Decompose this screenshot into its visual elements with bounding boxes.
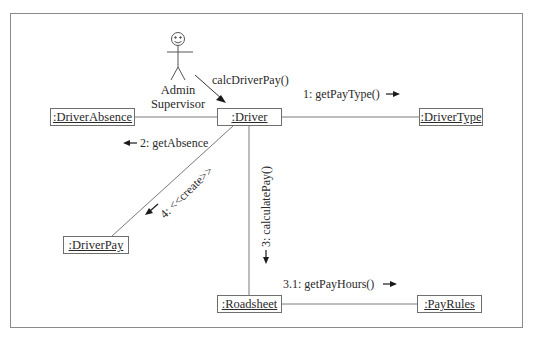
message-calc-driver-pay: calcDriverPay() — [212, 73, 289, 87]
get-absence-arrow-icon — [123, 140, 137, 146]
create-arrow-icon — [145, 204, 158, 215]
object-pay-rules[interactable]: :PayRules — [417, 295, 482, 313]
object-driver-type[interactable]: :DriverType — [419, 108, 483, 126]
object-driver[interactable]: :Driver — [217, 108, 282, 126]
get-pay-hours-arrow-icon — [383, 281, 397, 287]
message-get-pay-type: 1: getPayType() — [303, 87, 380, 101]
object-driver-absence[interactable]: :DriverAbsence — [50, 108, 135, 126]
actor-label: Admin Supervisor — [143, 83, 213, 111]
object-driver-pay[interactable]: :DriverPay — [63, 236, 129, 254]
actor-name-line1: Admin — [143, 83, 213, 97]
message-get-pay-hours: 3.1: getPayHours() — [283, 277, 374, 291]
actor-stick-figure-icon — [167, 33, 193, 81]
get-pay-type-arrow-icon — [386, 91, 400, 97]
calculate-pay-arrow-icon — [263, 250, 269, 264]
object-roadsheet[interactable]: :Roadsheet — [217, 295, 282, 313]
message-get-absence: 2: getAbsence — [140, 136, 208, 150]
message-calculate-pay: 3: calculatePay() — [259, 166, 273, 247]
actor-name-line2: Supervisor — [143, 97, 213, 111]
